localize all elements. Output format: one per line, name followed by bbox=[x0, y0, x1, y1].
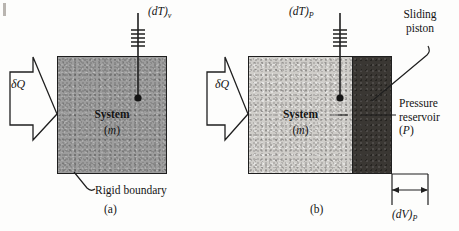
panel-b-piston-block bbox=[352, 56, 392, 174]
panel-b-reservoir-label-line3: (P) bbox=[399, 124, 459, 138]
panel-b-volume-change-sub: P bbox=[412, 214, 417, 223]
panel-a-probe-label-main: (dT) bbox=[148, 5, 168, 17]
panel-b-system-label: System bbox=[248, 108, 353, 121]
panel-a-mass-label: (m) bbox=[57, 124, 167, 137]
panel-b-dim-arrowhead-left bbox=[392, 187, 399, 193]
panel-b-piston-label: Sliding piston bbox=[389, 8, 451, 35]
thermodynamics-figure: System (m) (dT)v δQ Rigid boundary (a) S… bbox=[0, 0, 459, 231]
panel-b-reservoir-label-line2: reservoir bbox=[399, 111, 459, 125]
panel-a-system-label: System bbox=[57, 108, 167, 121]
panel-a-boundary-leader bbox=[74, 172, 95, 190]
panel-b-heat-arrow bbox=[207, 57, 248, 140]
panel-b-piston-label-line2: piston bbox=[389, 22, 451, 36]
panel-a-probe-label: (dT)v bbox=[148, 5, 171, 18]
panel-a-mass-symbol: m bbox=[108, 124, 116, 136]
panel-a-heat-arrow bbox=[10, 57, 57, 140]
panel-a-probe-coil bbox=[131, 30, 145, 46]
panel-b-dim-arrowhead-right bbox=[421, 187, 428, 193]
panel-b-probe-label-sub: P bbox=[309, 11, 314, 20]
panel-b-mass-symbol: m bbox=[296, 124, 304, 136]
panel-a-probe-label-sub: v bbox=[168, 11, 172, 20]
panel-b-mass-label: (m) bbox=[248, 124, 353, 137]
panel-b-piston-label-line1: Sliding bbox=[389, 8, 451, 22]
panel-b-volume-change-label: (dV)P bbox=[392, 208, 417, 221]
panel-b-heat-label: δQ bbox=[215, 78, 229, 91]
panel-b-probe-label-main: (dT) bbox=[289, 5, 309, 17]
panel-b-reservoir-symbol: P bbox=[403, 124, 410, 136]
panel-b-probe-coil bbox=[333, 30, 347, 46]
panel-b-reservoir-label: Pressure reservoir (P) bbox=[399, 97, 459, 138]
panel-a-caption: (a) bbox=[104, 203, 117, 216]
panel-a-heat-label: δQ bbox=[11, 78, 25, 91]
panel-b-reservoir-label-line1: Pressure bbox=[399, 97, 459, 111]
panel-b-volume-change-main: (dV) bbox=[392, 208, 412, 220]
scan-artifact bbox=[3, 3, 6, 16]
panel-b-probe-label: (dT)P bbox=[289, 5, 314, 18]
panel-a-boundary-label: Rigid boundary bbox=[95, 184, 167, 198]
panel-b-caption: (b) bbox=[310, 203, 323, 216]
